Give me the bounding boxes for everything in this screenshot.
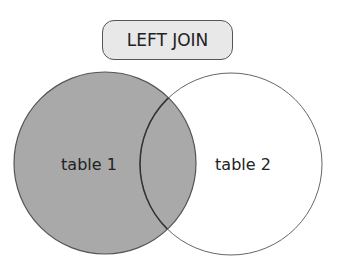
table2-label: table 2 <box>215 155 271 174</box>
venn-diagram: table 1 table 2 <box>0 0 337 271</box>
table1-label: table 1 <box>61 155 117 174</box>
